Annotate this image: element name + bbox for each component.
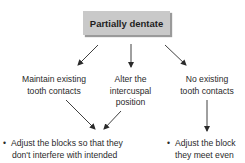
branch-alter-intercuspal: Alter the intercuspal position <box>103 74 158 109</box>
root-node-label: Partially dentate <box>90 18 163 29</box>
outcome-adjust-blocks-right: •Adjust the block they meet even <box>167 138 236 161</box>
root-node-partially-dentate: Partially dentate <box>83 11 170 35</box>
branch-label-line: position <box>103 97 158 109</box>
arrow-maintain-to-adjust <box>66 100 95 129</box>
branch-label-line: Maintain existing <box>14 74 94 86</box>
outcome-text-line: don't interfere with intended <box>12 150 117 160</box>
outcome-text-line: Adjust the block <box>175 138 236 148</box>
branch-label-line: Alter the <box>103 74 158 86</box>
outcome-text-line: they meet even <box>175 150 234 160</box>
outcome-adjust-blocks-left: •Adjust the blocks so that they don't in… <box>3 138 123 161</box>
outcome-text-line: Adjust the blocks so that they <box>11 138 123 148</box>
bullet-icon: • <box>167 138 175 150</box>
branch-maintain-existing: Maintain existing tooth contacts <box>14 74 94 97</box>
branch-label-line: tooth contacts <box>168 86 245 98</box>
arrow-root-to-maintain <box>78 45 98 65</box>
bullet-icon: • <box>3 138 11 150</box>
branch-label-line: No existing <box>168 74 245 86</box>
arrow-root-to-no-existing <box>165 45 186 65</box>
arrow-alter-to-adjust <box>104 111 121 129</box>
branch-label-line: tooth contacts <box>14 86 94 98</box>
branch-label-line: intercuspal <box>103 86 158 98</box>
branch-no-existing: No existing tooth contacts <box>168 74 245 97</box>
